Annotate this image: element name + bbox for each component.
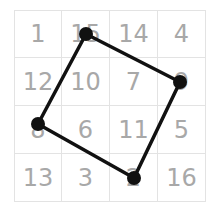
- vertex-dot: [173, 75, 187, 89]
- quadrilateral-overlay: [0, 0, 214, 212]
- vertex-dot: [79, 27, 93, 41]
- vertex-dot: [31, 117, 45, 131]
- vertex-dot: [127, 171, 141, 185]
- quadrilateral: [38, 34, 180, 178]
